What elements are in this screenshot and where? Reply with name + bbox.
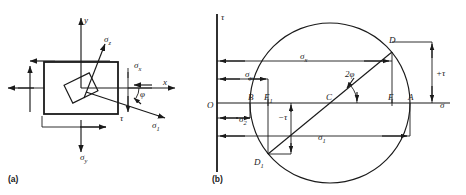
sigma-x-label: σx [134,60,141,72]
tau-axis-label: τ [221,12,225,22]
point-D-label: D [388,35,396,45]
point-O-label: O [207,100,214,110]
two-phi-arc [351,86,357,103]
panel-b-caption: (b) [212,174,223,184]
sigma-x-dim-label: σx [300,51,307,63]
tau-label: τ [120,113,124,123]
point-C-label: C [326,92,333,102]
figure-container: y x σz σx σy σ1 τ φ (a) [0,0,466,195]
phi-angle-arc [136,88,139,98]
sigma-2-dim-label: σ2 [239,114,247,126]
point-E1-label: E1 [263,92,273,104]
sigma-1-label: σ1 [152,120,160,132]
y-axis-label: y [83,15,88,25]
two-phi-label: 2φ [345,69,355,79]
tau-negative-label: −τ [278,112,288,122]
panel-b: τ σ O B E1 C E A D D1 σx σy σ2 σ1 +τ −τ … [207,12,450,184]
sigma-axis-label: σ [440,100,445,110]
phi-label: φ [140,89,145,99]
sigma-z-arrow [84,44,105,98]
x-axis-label: x [162,77,167,87]
tau-positive-label: +τ [436,68,446,78]
point-E-label: E [387,92,394,102]
sigma-z-label: σz [104,34,111,46]
point-B-label: B [248,92,254,102]
panel-a: y x σz σx σy σ1 τ φ (a) [8,15,175,184]
sigma-y-dim-label: σy [245,69,252,81]
panel-a-caption: (a) [8,174,19,184]
sigma-y-label: σy [80,152,87,164]
point-A-label: A [407,92,414,102]
point-D1-label: D1 [253,157,264,169]
sigma-1-dim-label: σ1 [318,132,326,144]
